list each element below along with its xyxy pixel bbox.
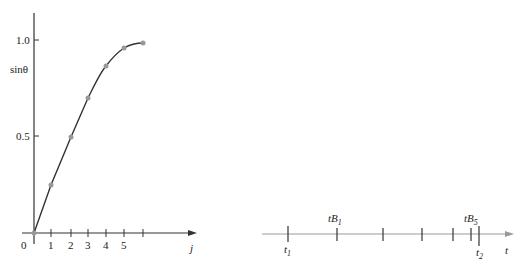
x-tick-label-4: 4 <box>103 239 109 251</box>
x-axis-label: j <box>188 242 193 254</box>
time-axis-arrow-icon <box>505 231 514 237</box>
data-points <box>32 41 146 236</box>
x-tick-label-2: 2 <box>68 239 74 251</box>
time-ticks <box>288 226 479 246</box>
t2-label: t2 <box>476 246 483 261</box>
x-tick-label-5: 5 <box>121 239 127 251</box>
tb1-label: tB1 <box>328 212 342 227</box>
time-axis-label: t <box>505 244 509 256</box>
x-axis-arrow-icon <box>188 230 197 236</box>
y-tick-label-05: 0.5 <box>16 130 30 142</box>
y-tick-label-1: 1.0 <box>16 34 30 46</box>
y-axis-label: sinθ <box>10 63 28 75</box>
origin-label: 0 <box>21 239 27 251</box>
diagram-canvas: 1.0 0.5 sinθ 0 1 2 3 4 5 j t1 tB1 tB <box>0 0 526 266</box>
x-tick-label-1: 1 <box>48 239 54 251</box>
t1-label: t1 <box>284 243 291 258</box>
x-tick-label-3: 3 <box>85 239 91 251</box>
sine-curve <box>34 43 143 233</box>
tb5-label: tB5 <box>464 212 478 227</box>
